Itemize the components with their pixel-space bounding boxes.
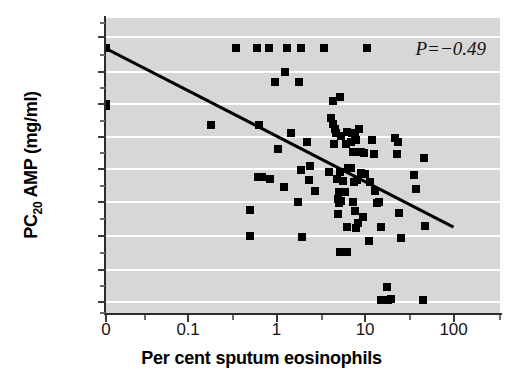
data-point <box>343 248 351 256</box>
data-point <box>339 177 347 185</box>
y-tick-minor <box>100 285 105 287</box>
y-tick <box>98 301 105 303</box>
data-point <box>419 296 427 304</box>
y-tick <box>98 71 105 73</box>
y-tick <box>98 269 105 271</box>
data-point <box>320 44 328 52</box>
data-point <box>349 198 357 206</box>
data-point <box>377 223 385 231</box>
data-point <box>258 173 266 181</box>
data-point <box>393 150 401 158</box>
data-point <box>330 140 338 148</box>
x-tick-label: 0 <box>101 320 110 340</box>
figure-root: PC20 AMP (mg/ml) Per cent sputum eosinop… <box>0 0 523 386</box>
data-point <box>353 176 361 184</box>
data-point <box>412 185 420 193</box>
y-axis-title-suffix: AMP (mg/ml) <box>21 91 41 201</box>
x-tick-label: 1 <box>272 320 281 340</box>
data-point <box>366 178 374 186</box>
x-tick-label: 100 <box>440 320 468 340</box>
data-point <box>246 232 254 240</box>
data-point <box>325 168 333 176</box>
data-point <box>336 93 344 101</box>
data-point <box>306 162 314 170</box>
data-point <box>255 121 263 129</box>
data-point <box>281 68 289 76</box>
x-tick-minor <box>232 315 234 320</box>
y-tick-minor <box>100 312 105 314</box>
y-tick-minor <box>100 152 105 154</box>
data-point <box>395 209 403 217</box>
y-tick <box>98 36 105 38</box>
y-tick <box>98 168 105 170</box>
data-point <box>303 138 311 146</box>
plot-area: P=−0.49 <box>106 18 500 313</box>
data-point <box>246 206 254 214</box>
data-point <box>363 44 371 52</box>
x-axis-title: Per cent sputum eosinophils <box>0 348 523 369</box>
data-point <box>360 149 368 157</box>
x-tick-label: 10 <box>356 320 375 340</box>
y-tick-minor <box>100 120 105 122</box>
data-point <box>355 125 363 133</box>
data-point <box>311 187 319 195</box>
data-point <box>265 44 273 52</box>
data-point <box>207 121 215 129</box>
data-point <box>295 78 303 86</box>
y-tick-minor <box>100 185 105 187</box>
data-point <box>266 175 274 183</box>
y-tick <box>98 201 105 203</box>
data-point <box>347 164 355 172</box>
data-point <box>297 166 305 174</box>
data-point <box>420 154 428 162</box>
x-tick-label: 0.1 <box>176 320 199 340</box>
y-axis-title-subscript: 20 <box>31 202 45 215</box>
data-point <box>370 150 378 158</box>
data-point <box>421 222 429 230</box>
data-point <box>287 129 295 137</box>
y-axis-title: PC20 AMP (mg/ml) <box>21 25 45 305</box>
y-axis-title-prefix: PC <box>21 214 41 238</box>
data-point <box>387 295 395 303</box>
data-point <box>297 44 305 52</box>
data-point <box>394 138 402 146</box>
data-point <box>305 176 313 184</box>
y-tick-minor <box>100 252 105 254</box>
data-point <box>410 171 418 179</box>
data-point <box>334 210 342 218</box>
data-point <box>298 233 306 241</box>
data-point <box>383 283 391 291</box>
data-point <box>232 44 240 52</box>
data-point <box>397 234 405 242</box>
x-tick-minor <box>144 315 146 320</box>
data-point <box>354 219 362 227</box>
data-point <box>368 136 376 144</box>
x-axis-line <box>104 313 502 315</box>
y-tick-minor <box>100 22 105 24</box>
data-point <box>294 198 302 206</box>
data-point <box>375 198 383 206</box>
data-point <box>253 44 261 52</box>
y-tick-minor <box>100 218 105 220</box>
data-point <box>365 237 373 245</box>
data-point <box>337 197 345 205</box>
data-point <box>106 44 110 52</box>
data-point <box>280 183 288 191</box>
x-tick-minor <box>409 315 411 320</box>
y-tick <box>98 103 105 105</box>
y-tick <box>98 235 105 237</box>
x-tick-minor <box>321 315 323 320</box>
y-tick-minor <box>100 87 105 89</box>
data-point <box>274 145 282 153</box>
data-point <box>271 78 279 86</box>
data-point <box>371 187 379 195</box>
y-tick <box>98 136 105 138</box>
annotation-symbol: P=−0.49 <box>416 38 487 59</box>
data-point <box>283 44 291 52</box>
data-point <box>352 136 360 144</box>
correlation-annotation: P=−0.49 <box>416 38 487 60</box>
y-tick-minor <box>100 54 105 56</box>
data-point <box>361 170 369 178</box>
data-point <box>106 102 110 110</box>
data-point <box>343 223 351 231</box>
